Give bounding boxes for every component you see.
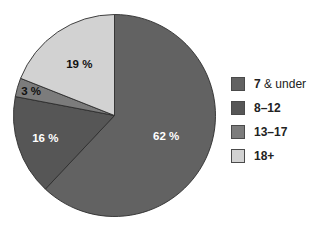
legend-label: 18+ <box>254 149 274 163</box>
legend-swatch <box>231 125 245 139</box>
slice-label: 62 % <box>153 130 179 142</box>
pie-slices <box>14 15 216 217</box>
legend-label: 13–17 <box>254 125 287 139</box>
slice-label: 19 % <box>66 58 92 70</box>
legend-item-8-12: 8–12 <box>231 96 306 120</box>
legend-label: 8–12 <box>254 101 281 115</box>
legend-swatch <box>231 77 245 91</box>
legend: 7 & under 8–12 13–17 18+ <box>231 72 306 168</box>
legend-label: 7 & under <box>254 77 306 91</box>
legend-item-18-plus: 18+ <box>231 144 306 168</box>
slice-label: 16 % <box>32 132 58 144</box>
slice-label: 3 % <box>21 85 41 97</box>
legend-swatch <box>231 149 245 163</box>
pie-chart: 62 %16 %3 %19 % <box>0 0 230 232</box>
legend-swatch <box>231 101 245 115</box>
legend-item-7-and-under: 7 & under <box>231 72 306 96</box>
legend-item-13-17: 13–17 <box>231 120 306 144</box>
